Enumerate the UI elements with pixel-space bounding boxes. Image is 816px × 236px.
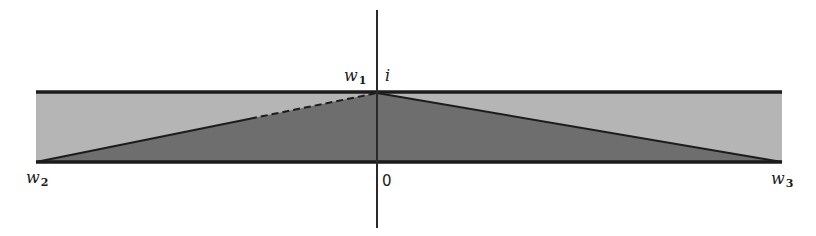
label-i-text: i: [385, 66, 390, 85]
label-w3-base: w: [771, 169, 785, 188]
label-w1: w1: [344, 68, 366, 84]
label-w3-sub: 3: [786, 177, 794, 190]
label-w2-sub: 2: [41, 176, 49, 189]
label-w2-base: w: [26, 168, 40, 187]
label-w1-base: w: [344, 66, 358, 85]
triangle-band-diagram: [0, 0, 816, 236]
label-w3: w3: [771, 171, 793, 187]
label-w1-sub: 1: [359, 74, 367, 87]
label-w2: w2: [26, 170, 48, 186]
label-origin: 0: [382, 174, 392, 189]
label-i: i: [385, 68, 390, 84]
